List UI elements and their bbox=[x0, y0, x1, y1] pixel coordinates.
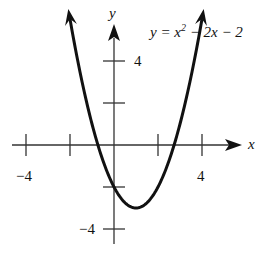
y-tick-label-neg4: −4 bbox=[79, 222, 95, 237]
y-tick-label-4: 4 bbox=[134, 54, 142, 69]
equation-label: y = x2 − 2x − 2 bbox=[150, 25, 243, 40]
axes bbox=[12, 38, 230, 244]
x-tick-label-4: 4 bbox=[197, 169, 205, 184]
x-tick-label-neg4: −4 bbox=[16, 169, 32, 184]
equation-rhs: − 2x − 2 bbox=[186, 24, 243, 40]
y-axis-label: y bbox=[109, 6, 116, 21]
parabola-curve bbox=[70, 19, 202, 208]
equation-lhs: y = x bbox=[150, 24, 181, 40]
x-axis-label: x bbox=[248, 137, 255, 152]
equation-exponent: 2 bbox=[181, 22, 186, 33]
